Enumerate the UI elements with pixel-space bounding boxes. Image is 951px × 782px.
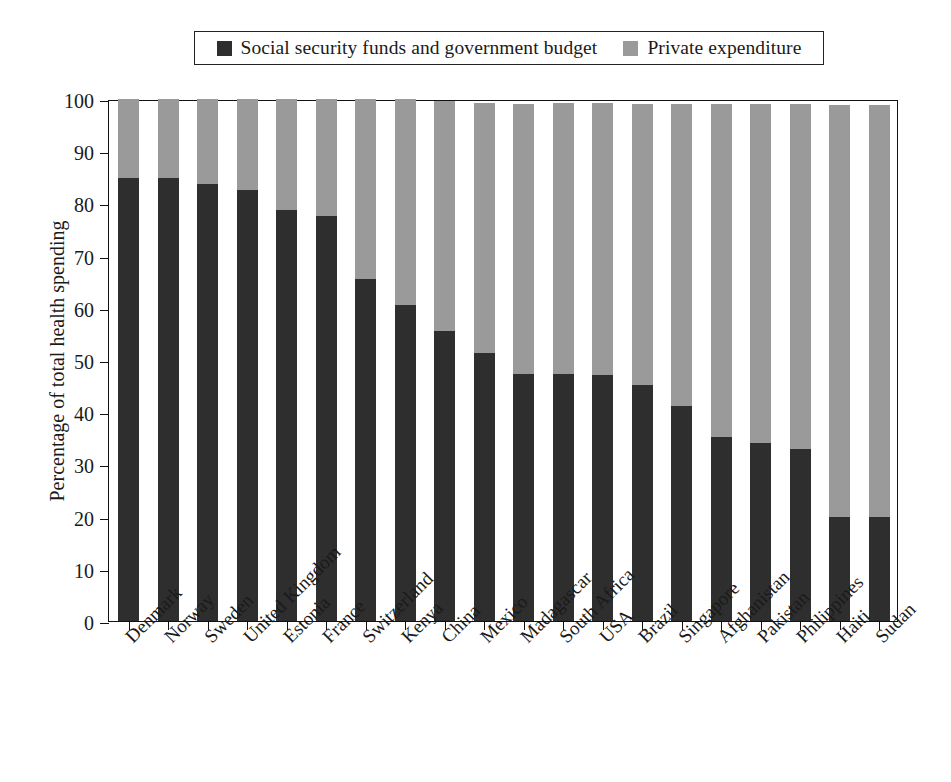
y-tick-label: 40 <box>74 403 94 426</box>
bar-south-africa <box>553 103 574 621</box>
bar-mexico <box>474 103 495 621</box>
bar-segment-private <box>434 101 455 332</box>
bar-denmark <box>118 99 139 621</box>
chart-figure: Social security funds and government bud… <box>0 0 951 782</box>
bar-sweden <box>197 99 218 621</box>
bar-segment-private <box>592 103 613 374</box>
y-tick-mark <box>100 623 109 624</box>
bar-madagascar <box>513 104 534 621</box>
bar-segment-private <box>395 99 416 305</box>
bar-segment-private <box>355 99 376 279</box>
bar-segment-public <box>237 190 258 621</box>
bar-segment-public <box>869 517 890 621</box>
bar-segment-private <box>829 105 850 517</box>
bar-segment-private <box>711 104 732 438</box>
y-tick-label: 100 <box>64 90 94 113</box>
y-tick-mark <box>100 101 109 102</box>
bar-philippines <box>790 104 811 621</box>
legend-swatch-public <box>217 41 232 56</box>
y-tick-mark <box>100 310 109 311</box>
y-tick-label: 70 <box>74 246 94 269</box>
bar-segment-private <box>632 104 653 385</box>
legend-entry-private: Private expenditure <box>623 38 801 58</box>
bar-segment-public <box>118 178 139 621</box>
legend-entry-public: Social security funds and government bud… <box>217 38 598 58</box>
bar-segment-public <box>197 184 218 621</box>
y-tick-label: 20 <box>74 507 94 530</box>
bar-segment-public <box>434 331 455 621</box>
bar-segment-private <box>158 99 179 178</box>
chart-legend: Social security funds and government bud… <box>194 31 824 65</box>
bar-haiti <box>829 105 850 621</box>
y-tick-mark <box>100 153 109 154</box>
legend-label-private: Private expenditure <box>647 38 801 58</box>
bar-segment-public <box>474 353 495 621</box>
bar-switzerland <box>355 99 376 621</box>
bar-segment-public <box>513 374 534 621</box>
y-tick-mark <box>100 258 109 259</box>
y-tick-label: 80 <box>74 194 94 217</box>
y-tick-label: 0 <box>84 612 94 635</box>
bar-china <box>434 101 455 621</box>
bar-segment-private <box>869 105 890 517</box>
y-tick-mark <box>100 519 109 520</box>
bar-segment-public <box>632 385 653 621</box>
bar-estonia <box>276 99 297 621</box>
bar-afghanistan <box>711 104 732 621</box>
y-tick-mark <box>100 205 109 206</box>
bar-segment-private <box>276 99 297 210</box>
y-tick-label: 10 <box>74 559 94 582</box>
y-tick-mark <box>100 362 109 363</box>
bar-segment-private <box>750 104 771 443</box>
bar-segment-private <box>237 99 258 190</box>
bar-norway <box>158 99 179 621</box>
bar-segment-private <box>513 104 534 374</box>
bar-segment-private <box>118 99 139 178</box>
bar-segment-public <box>671 406 692 621</box>
bar-segment-private <box>474 103 495 353</box>
bar-segment-public <box>395 305 416 621</box>
bar-brazil <box>632 104 653 621</box>
bar-usa <box>592 103 613 621</box>
y-tick-label: 30 <box>74 455 94 478</box>
bar-kenya <box>395 99 416 621</box>
bar-france <box>316 99 337 621</box>
y-tick-mark <box>100 414 109 415</box>
y-tick-label: 50 <box>74 351 94 374</box>
bar-segment-public <box>158 178 179 621</box>
legend-label-public: Social security funds and government bud… <box>241 38 598 58</box>
bar-segment-private <box>197 99 218 184</box>
bar-segment-private <box>790 104 811 449</box>
bar-segment-private <box>671 104 692 406</box>
bar-united-kingdom <box>237 99 258 621</box>
bar-segment-private <box>316 99 337 216</box>
y-tick-mark <box>100 571 109 572</box>
legend-swatch-private <box>623 41 638 56</box>
bar-sudan <box>869 105 890 621</box>
y-tick-label: 90 <box>74 142 94 165</box>
y-tick-label: 60 <box>74 298 94 321</box>
bar-segment-public <box>276 210 297 621</box>
plot-area: 0102030405060708090100 <box>108 100 898 622</box>
bar-pakistan <box>750 104 771 621</box>
bar-segment-private <box>553 103 574 374</box>
y-tick-mark <box>100 466 109 467</box>
y-axis-title: Percentage of total health spending <box>40 100 74 622</box>
bar-singapore <box>671 104 692 621</box>
bar-segment-public <box>355 279 376 621</box>
